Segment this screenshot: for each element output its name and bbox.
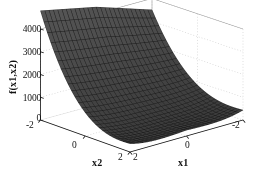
y-tick-label-neg2: -2 <box>26 121 34 131</box>
y-tick-label-0: 0 <box>72 141 77 151</box>
z-tick-label-1000: 1000 <box>4 94 41 104</box>
x-tick-label-2: 2 <box>133 153 138 163</box>
y-tick-label-2: 2 <box>118 153 123 163</box>
z-tick-label-0: 0 <box>4 114 41 124</box>
y-axis-title: x2 <box>92 158 102 168</box>
x-tick-label-0: 0 <box>185 141 190 151</box>
z-tick-label-2000: 2000 <box>4 71 41 81</box>
surface-plot-figure: f(x1,x2) 4000 3000 2000 1000 0 -2 0 2 2 … <box>0 0 256 181</box>
x-axis-title: x1 <box>178 158 188 168</box>
x-tick-label-neg2: -2 <box>232 121 240 131</box>
z-tick-label-4000: 4000 <box>4 25 41 35</box>
z-tick-label-3000: 3000 <box>4 48 41 58</box>
